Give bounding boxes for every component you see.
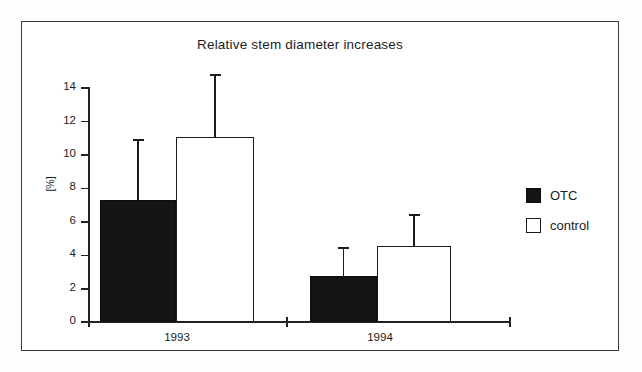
- bar-otc-1993: [100, 200, 176, 323]
- error-bar-control-1993: [210, 74, 221, 138]
- error-bar-control-1994: [409, 214, 420, 246]
- y-tick-label-6: 6: [50, 215, 76, 227]
- y-tick-14: [81, 87, 89, 89]
- y-tick-6: [81, 221, 89, 223]
- error-bar-cap: [210, 74, 221, 76]
- x-axis-label-1993: 1993: [137, 331, 217, 343]
- y-tick-10: [81, 154, 89, 156]
- y-tick-label-14: 14: [50, 81, 76, 93]
- y-axis-label: [%]: [44, 154, 56, 214]
- error-bar-cap: [133, 139, 144, 141]
- error-bar-stem: [413, 214, 415, 246]
- bar-otc-1994: [310, 276, 377, 323]
- y-tick-8: [81, 188, 89, 190]
- legend-item-otc: OTC: [526, 180, 589, 210]
- y-tick-label-0: 0: [50, 315, 76, 327]
- x-axis-start-tick: [88, 317, 90, 327]
- legend-swatch-filled-square-icon: [526, 188, 541, 203]
- bar-control-1993: [176, 137, 254, 322]
- y-tick-label-4: 4: [50, 248, 76, 260]
- x-axis-label-1994: 1994: [340, 331, 420, 343]
- x-axis-end-tick: [509, 317, 511, 327]
- y-tick-label-12: 12: [50, 115, 76, 127]
- bar-control-1994: [377, 246, 451, 323]
- legend-swatch-open-square-icon: [526, 218, 541, 233]
- error-bar-cap: [338, 247, 349, 249]
- legend-item-control: control: [526, 210, 589, 240]
- error-bar-stem: [137, 139, 139, 200]
- error-bar-stem: [343, 247, 345, 276]
- x-axis-group-divider-tick: [286, 317, 288, 327]
- error-bar-stem: [214, 74, 216, 138]
- y-tick-12: [81, 121, 89, 123]
- error-bar-cap: [409, 214, 420, 216]
- legend-label-otc: OTC: [550, 188, 577, 203]
- y-tick-label-2: 2: [50, 282, 76, 294]
- legend-label-control: control: [550, 218, 589, 233]
- y-tick-2: [81, 288, 89, 290]
- error-bar-otc-1994: [338, 247, 349, 276]
- figure-canvas: Relative stem diameter increases 0 2 4 6…: [0, 0, 642, 372]
- chart-legend: OTC control: [526, 180, 589, 240]
- error-bar-otc-1993: [133, 139, 144, 200]
- y-tick-4: [81, 255, 89, 257]
